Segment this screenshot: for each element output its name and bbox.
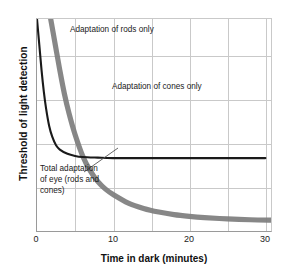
- annotation-rods-only: Adaptation of rods only: [70, 24, 154, 35]
- annotation-cones-only: Adaptation of cones only: [112, 81, 202, 92]
- annotation-total-adaptation: Total adaptation of eye (rods and cones): [40, 163, 120, 196]
- total-label-line3: cones): [40, 186, 65, 195]
- curves-layer: [37, 19, 272, 232]
- total-label-line1: Total adaptation: [40, 164, 98, 173]
- plot-area: [36, 18, 272, 232]
- x-axis-title: Time in dark (minutes): [36, 253, 272, 264]
- x-tick-label-0: 0: [21, 234, 51, 244]
- x-tick-label-10: 10: [98, 234, 128, 244]
- total-label-line2: of eye (rods and: [40, 175, 99, 184]
- y-axis-title: Threshold of light detection: [18, 29, 29, 199]
- x-tick-label-30: 30: [250, 234, 280, 244]
- dark-adaptation-chart: Threshold of light detection Adaptation …: [0, 0, 297, 279]
- x-tick-label-20: 20: [174, 234, 204, 244]
